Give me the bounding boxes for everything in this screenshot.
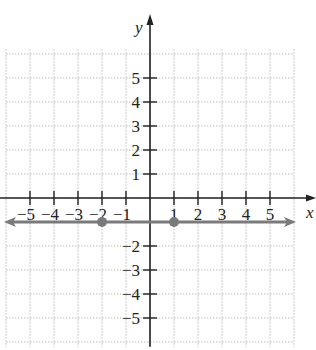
y-tick-label: 1	[132, 165, 141, 184]
y-tick-label: 5	[132, 69, 141, 88]
x-axis-label: x	[305, 203, 314, 222]
y-tick-label: 4	[132, 93, 141, 112]
y-tick-label: 3	[132, 117, 141, 136]
y-axis-arrow-icon	[147, 14, 154, 25]
coordinate-plane: xy−5−4−3−2−11234554321−2−3−4−5	[0, 0, 316, 350]
data-point	[169, 217, 179, 227]
y-tick-label: −2	[122, 237, 140, 256]
y-tick-label: 2	[132, 141, 141, 160]
data-point	[97, 217, 107, 227]
x-axis-arrow-icon	[306, 195, 316, 202]
y-tick-label: −3	[122, 261, 140, 280]
y-tick-label: −5	[122, 309, 140, 328]
y-tick-label: −4	[122, 285, 141, 304]
y-axis-label: y	[133, 18, 143, 37]
